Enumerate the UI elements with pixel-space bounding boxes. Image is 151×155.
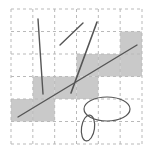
grid-cell-r2-c5	[120, 54, 142, 77]
grid-cell-r4-c1	[33, 99, 55, 122]
grid-cell-r3-c1	[33, 77, 55, 100]
figure-canvas	[0, 0, 151, 155]
grid-cell-r2-c3	[77, 54, 99, 77]
grid-cell-r1-c5	[120, 32, 142, 55]
figure-svg	[0, 0, 151, 155]
